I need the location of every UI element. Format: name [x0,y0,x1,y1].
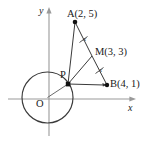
point-label-B: B(4, 1) [110,79,140,90]
segment-OP [48,84,69,98]
x-axis-arrowhead [129,96,136,101]
tick-label-AM: x [83,36,86,43]
point-B-dot [105,83,109,87]
y-axis-arrowhead [46,7,51,14]
point-P-dot [66,82,71,87]
x-axis-label: x [128,103,132,113]
geometry-figure: A(2, 5) M(3, 3) B(4, 1) P O x y x x [0,0,150,151]
point-A-dot [73,20,78,25]
x-axis [8,96,136,101]
segment-PB [68,84,104,85]
y-axis-label: y [39,6,43,16]
point-label-M: M(3, 3) [95,47,127,58]
figure-canvas [0,0,150,151]
tick-label-MB: x [99,67,102,74]
segment-PM [68,56,92,84]
origin-label: O [36,99,44,110]
point-label-A: A(2, 5) [67,9,97,20]
point-label-P: P [60,70,66,81]
segment-PA [68,22,75,84]
